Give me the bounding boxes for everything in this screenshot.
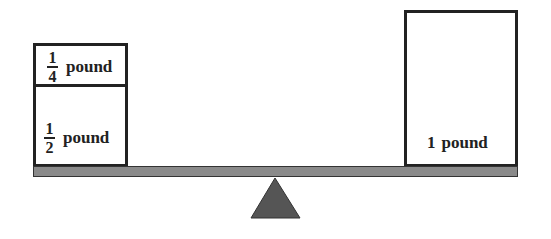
fulcrum-triangle-icon	[0, 0, 551, 239]
